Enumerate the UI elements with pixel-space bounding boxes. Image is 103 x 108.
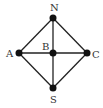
node-n <box>50 15 57 22</box>
edge-a-s <box>19 53 53 88</box>
label-a: A <box>5 48 14 59</box>
label-s: S <box>50 94 57 105</box>
node-a <box>16 50 23 57</box>
edge-c-s <box>53 53 87 88</box>
label-b: B <box>42 41 49 52</box>
graph-diagram: N A B C S <box>0 0 103 108</box>
node-c <box>84 50 91 57</box>
edge-n-c <box>53 18 87 53</box>
label-c: C <box>92 49 100 60</box>
label-n: N <box>50 2 59 13</box>
node-b <box>50 50 57 57</box>
node-s <box>50 85 57 92</box>
